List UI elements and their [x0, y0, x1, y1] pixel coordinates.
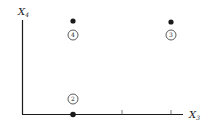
- point-2-label: 2: [71, 95, 75, 102]
- point-3-dot: [168, 19, 173, 24]
- point-2-dot: [70, 112, 76, 118]
- x-axis-label: X3: [188, 109, 200, 121]
- y-axis-label: X4: [17, 6, 29, 18]
- point-4-dot: [70, 18, 75, 23]
- point-4-label: 4: [71, 31, 75, 38]
- point-3-label: 3: [169, 31, 173, 38]
- diagram-canvas: X4 X3 4 3 2: [0, 0, 217, 129]
